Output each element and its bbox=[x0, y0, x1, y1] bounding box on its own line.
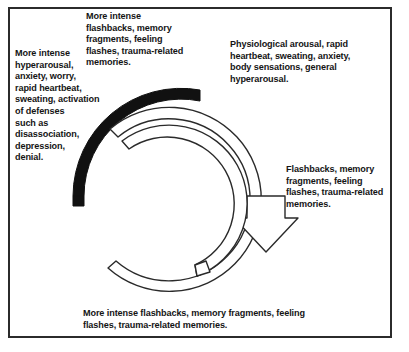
label-more-intense-flashbacks-top: More intense flashbacks, memory fragment… bbox=[86, 11, 208, 69]
label-more-intense-flashbacks-bottom: More intense flashbacks, memory fragment… bbox=[83, 308, 333, 331]
diagram-canvas: More intense flashbacks, memory fragment… bbox=[0, 0, 409, 352]
label-more-intense-hyperarousal-left: More intense hyperarousal, anxiety, worr… bbox=[15, 48, 101, 164]
label-flashbacks-memory-right: Flashbacks, memory fragments, feeling fl… bbox=[286, 164, 398, 210]
label-physiological-arousal-right: Physiological arousal, rapid heartbeat, … bbox=[230, 39, 390, 85]
